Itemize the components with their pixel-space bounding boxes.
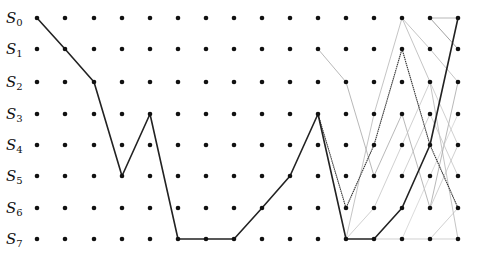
trellis-node [148, 80, 153, 85]
state-label-s6: S6 [6, 199, 23, 218]
light-path-a [318, 49, 458, 208]
trellis-node [428, 16, 433, 21]
trellis-node [456, 143, 461, 148]
trellis-node [372, 80, 377, 85]
trellis-node [35, 237, 40, 242]
trellis-node [344, 47, 349, 52]
trellis-node [176, 237, 181, 242]
trellis-node [176, 206, 181, 211]
state-label-s3: S3 [6, 105, 23, 124]
main-path [37, 18, 458, 239]
trellis-node [232, 47, 237, 52]
state-label-s5: S5 [6, 167, 23, 186]
trellis-node [316, 237, 321, 242]
trellis-node [288, 112, 293, 117]
trellis-node [204, 16, 209, 21]
state-label-s4: S4 [6, 136, 23, 155]
trellis-node [316, 16, 321, 21]
trellis-node [63, 16, 68, 21]
trellis-node [400, 206, 405, 211]
trellis-node [344, 112, 349, 117]
trellis-node [63, 143, 68, 148]
trellis-node [428, 206, 433, 211]
branch-path [318, 49, 458, 208]
trellis-node [232, 237, 237, 242]
trellis-node [344, 16, 349, 21]
trellis-node [204, 112, 209, 117]
trellis-node [120, 206, 125, 211]
trellis-node [372, 112, 377, 117]
trellis-node [92, 206, 97, 211]
trellis-node [400, 174, 405, 179]
trellis-node [288, 237, 293, 242]
trellis-node [400, 112, 405, 117]
trellis-node [63, 174, 68, 179]
trellis-diagram: S0S1S2S3S4S5S6S7 [0, 0, 481, 255]
trellis-node [176, 174, 181, 179]
trellis-node [260, 16, 265, 21]
trellis-node [176, 16, 181, 21]
trellis-node [456, 16, 461, 21]
state-labels: S0S1S2S3S4S5S6S7 [6, 9, 23, 249]
trellis-node [63, 80, 68, 85]
trellis-node [372, 206, 377, 211]
trellis-node [92, 80, 97, 85]
trellis-node [288, 206, 293, 211]
trellis-node [316, 143, 321, 148]
light-path-i [430, 208, 458, 239]
trellis-node [92, 143, 97, 148]
trellis-node [344, 174, 349, 179]
trellis-node [92, 174, 97, 179]
trellis-node [400, 16, 405, 21]
trellis-node [372, 237, 377, 242]
trellis-node [372, 174, 377, 179]
trellis-node [400, 80, 405, 85]
trellis-node [120, 112, 125, 117]
state-label-s0: S0 [6, 9, 23, 28]
trellis-node [260, 206, 265, 211]
trellis-node [260, 237, 265, 242]
trellis-node [148, 16, 153, 21]
trellis-node [35, 206, 40, 211]
trellis-node [428, 112, 433, 117]
trellis-node [35, 47, 40, 52]
trellis-node [456, 80, 461, 85]
trellis-node [288, 16, 293, 21]
trellis-node [35, 16, 40, 21]
trellis-node [63, 112, 68, 117]
trellis-node [204, 47, 209, 52]
trellis-node [148, 237, 153, 242]
trellis-node [120, 237, 125, 242]
trellis-node [372, 16, 377, 21]
trellis-node [92, 16, 97, 21]
trellis-nodes [35, 16, 461, 242]
trellis-paths [37, 18, 458, 239]
trellis-node [120, 16, 125, 21]
trellis-node [428, 237, 433, 242]
trellis-node [428, 174, 433, 179]
trellis-node [204, 80, 209, 85]
trellis-node [400, 143, 405, 148]
trellis-node [35, 143, 40, 148]
trellis-node [260, 80, 265, 85]
trellis-node [344, 80, 349, 85]
trellis-node [232, 112, 237, 117]
trellis-node [260, 174, 265, 179]
trellis-node [232, 16, 237, 21]
trellis-node [176, 112, 181, 117]
state-label-s2: S2 [6, 73, 23, 92]
trellis-node [428, 80, 433, 85]
trellis-node [120, 143, 125, 148]
trellis-node [204, 143, 209, 148]
trellis-node [148, 47, 153, 52]
trellis-node [288, 80, 293, 85]
trellis-node [288, 174, 293, 179]
trellis-node [344, 143, 349, 148]
trellis-node [148, 206, 153, 211]
trellis-node [260, 47, 265, 52]
trellis-node [63, 206, 68, 211]
trellis-node [176, 143, 181, 148]
trellis-node [260, 143, 265, 148]
trellis-node [120, 174, 125, 179]
trellis-node [148, 174, 153, 179]
